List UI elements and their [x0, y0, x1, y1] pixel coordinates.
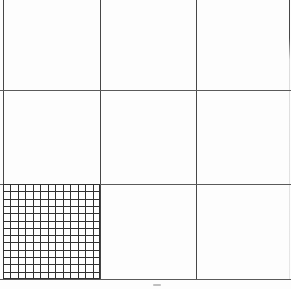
- major-vertical-line-vertical-2: [196, 0, 197, 280]
- graph-paper-figure: [0, 0, 291, 289]
- major-horizontal-line-horizontal-1: [0, 90, 291, 91]
- major-vertical-line-vertical-1: [100, 0, 101, 280]
- major-horizontal-line-bottom-edge: [0, 279, 291, 280]
- major-vertical-line-right-edge: [289, 0, 290, 280]
- ink-speck: [153, 284, 161, 286]
- fine-grid-patch: [3, 184, 100, 279]
